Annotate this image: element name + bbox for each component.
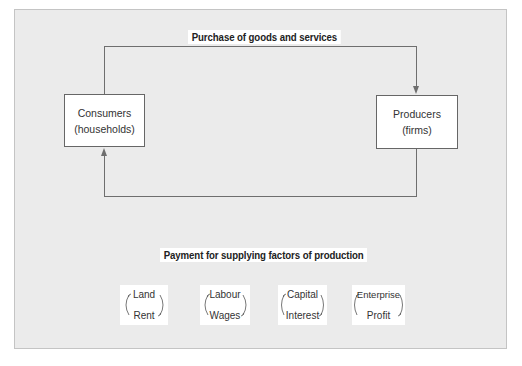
- factor-capital: Capital Interest: [278, 285, 327, 325]
- consumers-label: Consumers: [78, 105, 132, 121]
- bottom-flow-label: Payment for supplying factors of product…: [160, 248, 367, 262]
- top-flow-left-vertical: [104, 46, 105, 94]
- producers-label: Producers: [393, 106, 441, 122]
- factor-labour: Labour Wages: [200, 285, 250, 325]
- bottom-flow-right-vertical: [416, 149, 417, 197]
- reward-label: Interest: [278, 310, 327, 321]
- top-flow-horizontal: [104, 46, 417, 47]
- arrow-up-icon: [101, 148, 107, 156]
- reward-label: Rent: [120, 310, 168, 321]
- top-flow-right-vertical: [416, 46, 417, 88]
- factor-label: Labour: [200, 289, 250, 300]
- factor-label: Land: [120, 289, 168, 300]
- factor-label: Capital: [278, 289, 327, 300]
- consumers-sublabel: (households): [74, 121, 135, 137]
- reward-label: Profit: [352, 310, 405, 321]
- producers-node: Producers (firms): [376, 95, 458, 149]
- top-flow-label: Purchase of goods and services: [188, 30, 341, 44]
- diagram-panel: [14, 9, 507, 349]
- reward-label: Wages: [200, 310, 250, 321]
- factor-enterprise: Enterprise Profit: [352, 285, 405, 325]
- consumers-node: Consumers (households): [64, 94, 145, 147]
- bottom-flow-horizontal: [104, 196, 417, 197]
- arrow-down-icon: [413, 86, 419, 94]
- factor-land: Land Rent: [120, 285, 168, 325]
- factor-label: Enterprise: [352, 289, 405, 300]
- bottom-flow-left-vertical: [104, 156, 105, 197]
- producers-sublabel: (firms): [402, 122, 432, 138]
